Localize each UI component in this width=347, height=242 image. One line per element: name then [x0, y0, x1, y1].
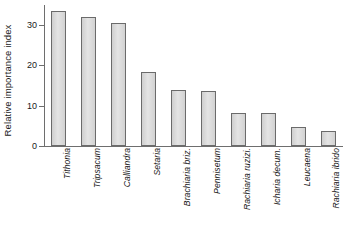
x-category-label-text: Calliandra: [122, 148, 132, 187]
bar-slot: [201, 0, 216, 146]
x-category-label-text: Brachiaria briz.: [182, 148, 192, 206]
y-tick-mark: [39, 146, 44, 147]
bar: [171, 90, 186, 146]
y-axis-title: Relative importance index: [0, 0, 16, 160]
x-category-label-text: Pennisetum: [212, 148, 222, 194]
bar-slot: [261, 0, 276, 146]
y-axis-title-text: Relative importance index: [3, 24, 14, 136]
bar-series: [44, 0, 343, 146]
bar: [81, 17, 96, 146]
bar: [111, 23, 126, 146]
x-category-label-text: Rachiaria ruzizi.: [242, 148, 252, 210]
bar-slot: [141, 0, 156, 146]
y-tick-label: 30: [16, 20, 37, 30]
bar: [201, 91, 216, 146]
bar-slot: [51, 0, 66, 146]
x-category-label-text: Setaria: [152, 148, 162, 176]
x-category-label-text: Icharia decum.: [272, 148, 282, 205]
x-category-label-text: Tithonia: [62, 148, 72, 179]
y-tick-label: 0: [16, 141, 37, 151]
bar: [231, 113, 246, 146]
bar-chart: Relative importance index 0102030 Tithon…: [0, 0, 347, 242]
bar-slot: [81, 0, 96, 146]
x-category-label-text: Leucaena: [302, 148, 312, 186]
y-tick-label: 10: [16, 101, 37, 111]
bar: [51, 11, 66, 146]
x-axis-line: [44, 146, 343, 147]
bar-slot: [291, 0, 306, 146]
bar: [321, 131, 336, 146]
bar-slot: [321, 0, 336, 146]
x-category-label-text: Rachiaria ibrido: [331, 148, 341, 209]
bar-slot: [171, 0, 186, 146]
bar-slot: [231, 0, 246, 146]
y-tick-label: 20: [16, 60, 37, 70]
bar: [141, 72, 156, 146]
bar-slot: [111, 0, 126, 146]
bar: [261, 113, 276, 146]
bar: [291, 127, 306, 146]
x-axis-category-labels: TithoniaTripsacumCalliandraSetariaBrachi…: [44, 148, 343, 242]
x-category-label-text: Tripsacum: [92, 148, 102, 188]
